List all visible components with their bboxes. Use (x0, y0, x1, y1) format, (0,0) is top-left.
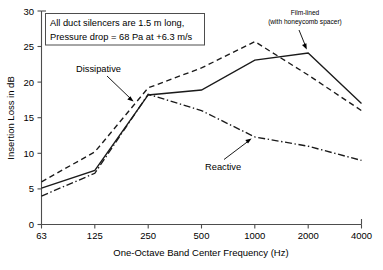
x-tick-label-1000: 1000 (244, 230, 265, 241)
y-tick-label-30: 30 (23, 6, 34, 17)
note-annotation-box: All duct silencers are 1.5 m long, Press… (46, 14, 205, 46)
callout-reactive-label: Reactive (205, 162, 241, 172)
x-tick-label-125: 125 (87, 230, 103, 241)
note-line-2: Pressure drop = 68 Pa at +6.3 m/s (50, 32, 192, 42)
y-axis-title: Insertion Loss in dB (5, 76, 16, 159)
y-tick-label-0: 0 (29, 219, 34, 230)
callout-dissipative-label: Dissipative (76, 64, 121, 74)
y-tick-label-25: 25 (23, 41, 34, 52)
x-tick-label-500: 500 (194, 230, 210, 241)
chart-figure: 0 5 10 15 20 25 30 63 125 250 500 1000 2… (0, 0, 383, 270)
x-tick-label-63: 63 (36, 230, 47, 241)
y-tick-label-15: 15 (23, 112, 34, 123)
x-tick-label-250: 250 (140, 230, 156, 241)
insertion-loss-line-chart: 0 5 10 15 20 25 30 63 125 250 500 1000 2… (0, 0, 383, 270)
x-tick-label-2000: 2000 (298, 230, 319, 241)
y-tick-label-20: 20 (23, 77, 34, 88)
y-tick-label-10: 10 (23, 148, 34, 159)
x-tick-label-4000: 4000 (351, 230, 372, 241)
note-line-1: All duct silencers are 1.5 m long, (50, 18, 184, 28)
y-tick-label-5: 5 (29, 183, 34, 194)
callout-film-lined-label-1: Film-lined (291, 9, 320, 16)
callout-film-lined-label-2: (with honeycomb spacer) (268, 18, 342, 26)
x-axis-title: One-Octave Band Center Frequency (Hz) (113, 247, 288, 258)
